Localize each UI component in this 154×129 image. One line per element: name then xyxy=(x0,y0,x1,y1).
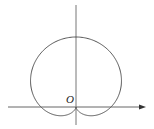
axis-arrow-icon xyxy=(139,105,146,110)
origin-label: O xyxy=(66,93,74,105)
cardioid-diagram: O xyxy=(0,0,154,129)
